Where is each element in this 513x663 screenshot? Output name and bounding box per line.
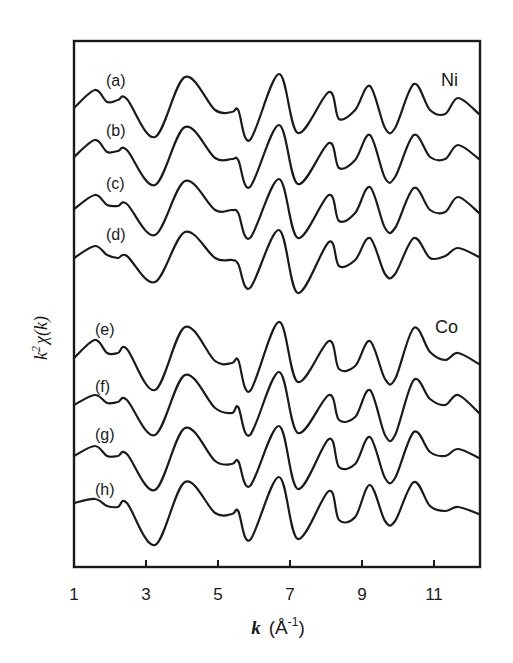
x-tick-label: 1 — [69, 585, 78, 604]
x-tick-label: 9 — [357, 585, 366, 604]
series-curve-h — [74, 477, 479, 545]
series-label-c: (c) — [106, 175, 125, 192]
series-curve-d — [74, 230, 479, 293]
series-label-h: (h) — [95, 481, 115, 498]
x-tick-label: 7 — [285, 585, 294, 604]
x-tick-label: 11 — [425, 585, 443, 604]
series-label-d: (d) — [106, 226, 126, 243]
group-label-co: Co — [435, 317, 458, 337]
plot-frame — [74, 41, 480, 567]
series-label-e: (e) — [95, 321, 115, 338]
x-tick-label: 3 — [141, 585, 150, 604]
series-curve-g — [74, 426, 479, 490]
series-label-b: (b) — [106, 122, 126, 139]
series-label-a: (a) — [106, 72, 126, 89]
series-label-g: (g) — [95, 426, 115, 443]
series-label-f: (f) — [95, 378, 110, 395]
x-tick-label: 5 — [213, 585, 222, 604]
y-axis-label: k2χ(k) — [29, 316, 52, 360]
series-curve-b — [74, 125, 479, 188]
series-curve-f — [74, 372, 479, 441]
exafs-chart: 1357911 (a) (b) (c) (d) (e) (f) (g) (h) … — [0, 0, 513, 663]
curves-group — [74, 74, 479, 545]
series-curve-a — [74, 74, 479, 141]
x-axis-label: k(Å-1) — [251, 615, 305, 638]
group-label-ni: Ni — [441, 70, 458, 90]
